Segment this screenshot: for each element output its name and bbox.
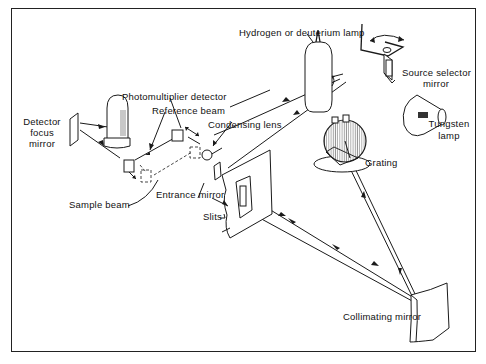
optical-layout-drawing [0,0,486,364]
label-collimating-mirror: Collimating mirror [343,311,421,322]
source-selector-mirror-icon [361,24,404,83]
label-entrance-mirror: Entrance mirror [156,189,224,200]
label-source-selector-line2: mirror [402,78,470,89]
label-hydrogen-lamp: Hydrogen or deuterium lamp [239,27,365,38]
photomultiplier-detector-icon [104,95,130,148]
label-sample-beam: Sample beam [69,199,130,210]
label-tungsten-line2: lamp [424,130,474,141]
label-photomultiplier: Photomultiplier detector [122,91,227,102]
detector-focus-mirror-icon [70,113,78,146]
hydrogen-lamp-icon [305,30,334,112]
label-grating: Grating [365,157,398,168]
label-detector-focus-line1: Detector [19,116,65,127]
label-detector-focus-line2: focus [19,127,65,138]
label-detector-focus-line3: mirror [19,138,65,149]
diagram-canvas: Hydrogen or deuterium lamp Source select… [0,0,486,364]
label-slits: Slits [203,211,222,222]
label-source-selector-line1: Source selector [402,67,470,78]
grating-icon [314,115,370,172]
label-reference-beam: Reference beam [152,105,225,116]
label-condensing-lens: Condensing lens [208,119,282,130]
label-tungsten-line1: Tungsten [424,118,474,129]
